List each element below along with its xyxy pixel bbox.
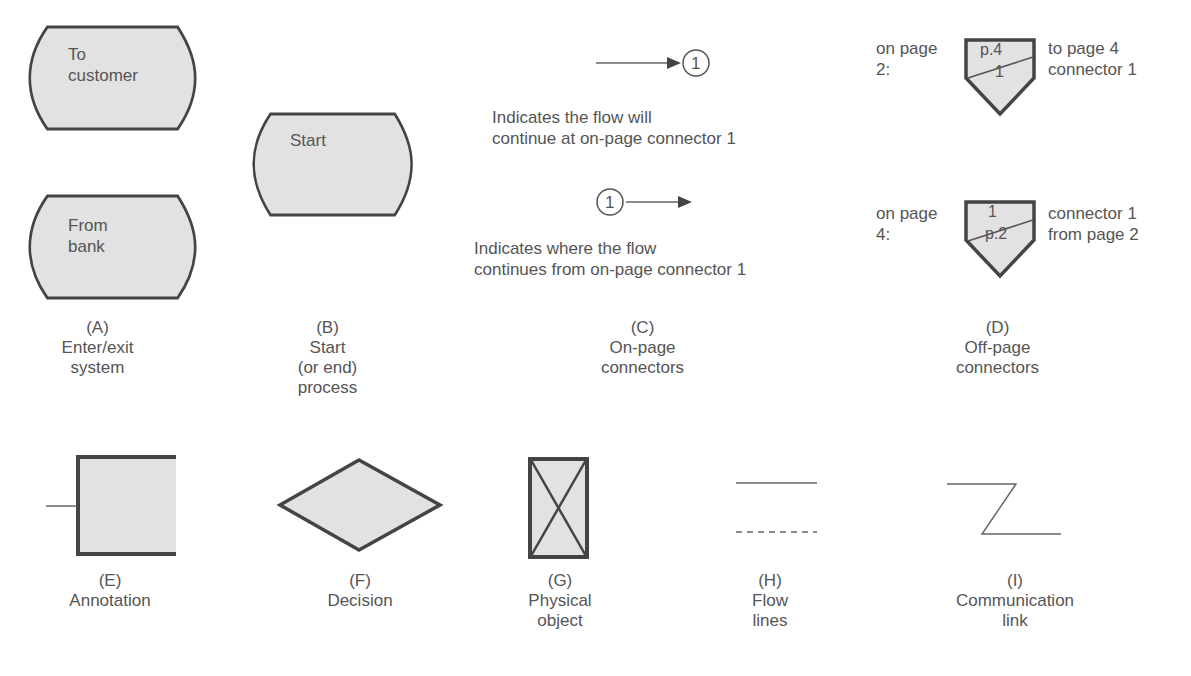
offpage-bottom-lower: p.2 (985, 225, 1007, 243)
terminal-shape-from-bank (28, 193, 196, 303)
start-label: Start (290, 130, 326, 151)
desc-bottom: Indicates where the flow continues from … (474, 238, 746, 280)
physical-object-shape (527, 456, 591, 560)
caption-e: (E) Annotation (60, 571, 160, 611)
connector-number: 1 (691, 54, 700, 74)
caption-f: (F) Decision (310, 571, 410, 611)
caption-b: (B) Start (or end) process (280, 318, 375, 398)
caption-a: (A) Enter/exit system (40, 318, 155, 378)
flow-lines-shape (735, 480, 819, 536)
caption-h: (H) Flow lines (730, 571, 810, 631)
desc-top: Indicates the flow will continue at on-p… (492, 107, 736, 149)
communication-link-shape (946, 481, 1062, 537)
offpage-top-lower: 1 (995, 63, 1004, 81)
connector-number: 1 (605, 193, 614, 213)
terminal-shape-start (252, 111, 420, 219)
arrow-into-connector-icon (595, 48, 725, 78)
caption-c: (C) On-page connectors (585, 318, 700, 378)
offpage-bottom-upper: 1 (988, 203, 997, 221)
decision-diamond-shape (278, 458, 443, 554)
offpage-bottom-left: on page 4: (876, 203, 937, 245)
shape-label-line: customer (68, 65, 138, 86)
offpage-top-left: on page 2: (876, 38, 937, 80)
caption-g: (G) Physical object (510, 571, 610, 631)
shape-label-line: bank (68, 236, 108, 257)
offpage-bottom-right: connector 1 from page 2 (1048, 203, 1139, 245)
caption-d: (D) Off-page connectors (940, 318, 1055, 378)
annotation-shape (45, 453, 177, 559)
offpage-top-right: to page 4 connector 1 (1048, 38, 1137, 80)
shape-label-line: From (68, 215, 108, 236)
shape-label-line: To (68, 44, 138, 65)
offpage-top-upper: p.4 (980, 41, 1002, 59)
caption-i: (I) Communication link (950, 571, 1080, 631)
